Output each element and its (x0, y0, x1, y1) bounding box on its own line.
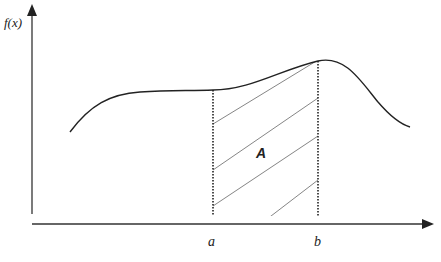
region-label: A (256, 145, 266, 161)
x-mark-b-label: b (314, 234, 321, 250)
x-axis-arrow-icon (422, 219, 434, 229)
hatched-region (213, 60, 318, 226)
y-axis-label: f(x) (4, 15, 22, 31)
diagram-svg (0, 0, 441, 262)
function-curve (70, 60, 410, 132)
y-axis-arrow-icon (27, 4, 37, 16)
area-under-curve-diagram: f(x) a b A (0, 0, 441, 262)
x-mark-a-label: a (208, 234, 215, 250)
